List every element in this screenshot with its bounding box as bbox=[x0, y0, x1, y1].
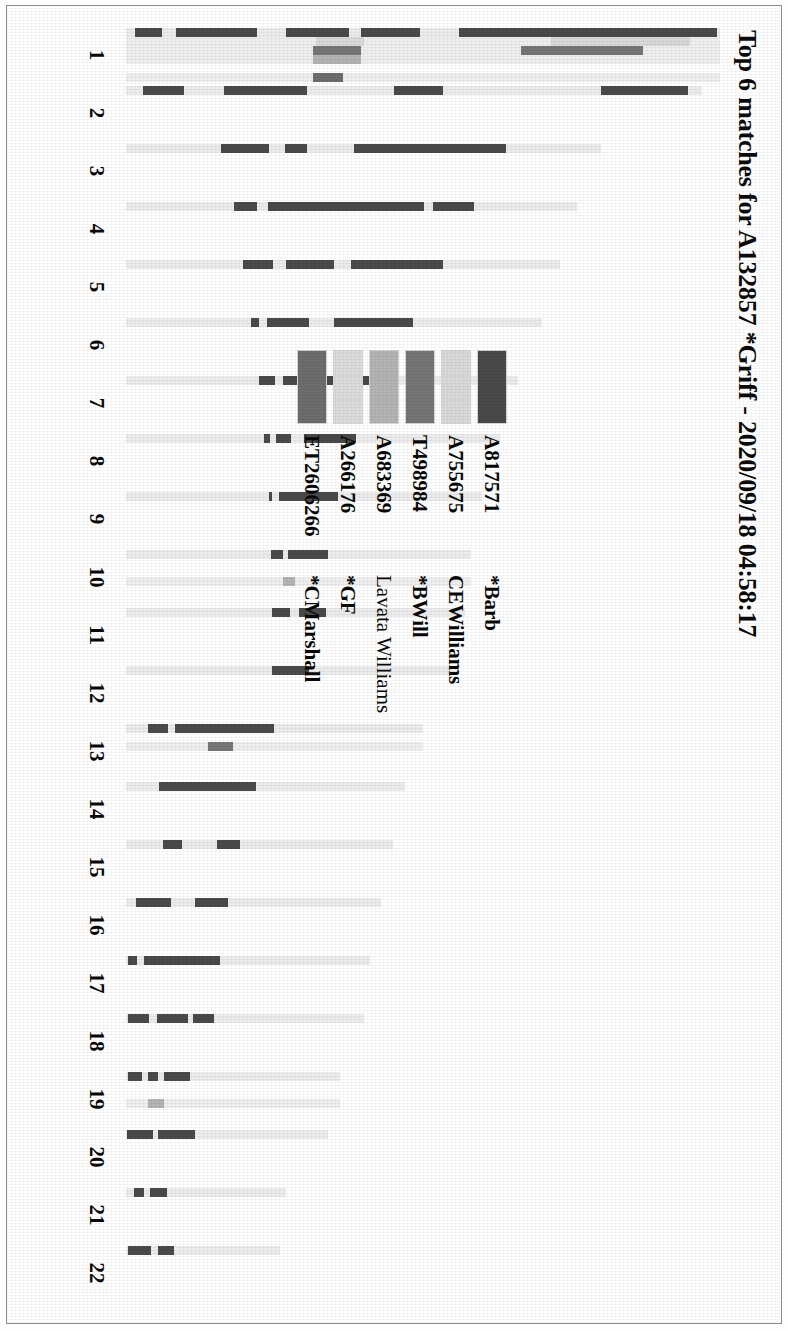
match-segment bbox=[128, 1246, 152, 1255]
chromosome-number-label: 22 bbox=[84, 1246, 109, 1300]
legend-row: A683369Lavata Williams bbox=[366, 350, 402, 713]
chromosome-lane bbox=[126, 180, 601, 189]
chromosome-number-label: 18 bbox=[84, 1014, 109, 1068]
chromosome-lane bbox=[126, 318, 542, 327]
chromosome-lane bbox=[126, 1081, 340, 1090]
legend-match-name: CEWilliams bbox=[444, 575, 469, 684]
chromosome-number-label: 11 bbox=[84, 608, 109, 662]
chromosome-number-label: 17 bbox=[84, 956, 109, 1010]
chromosome-lane bbox=[126, 925, 381, 934]
chromosome-lane bbox=[126, 73, 720, 82]
chromosome-lane bbox=[126, 238, 577, 247]
match-segment bbox=[163, 840, 182, 849]
match-segment bbox=[271, 550, 283, 559]
chromosome-lane bbox=[126, 287, 560, 296]
chromosome-lane bbox=[126, 113, 702, 122]
match-segment bbox=[313, 46, 361, 55]
chromosome-group: 21 bbox=[126, 1188, 286, 1242]
match-segment bbox=[217, 840, 240, 849]
chromosome-lane bbox=[126, 220, 577, 229]
legend: A817571*BarbA755675CEWilliamsT498984*BWi… bbox=[294, 350, 510, 713]
match-segment bbox=[433, 202, 474, 211]
chromosome-group: 19 bbox=[126, 1072, 340, 1126]
chromosome-group: 15 bbox=[126, 840, 393, 894]
chromosome-lane bbox=[126, 809, 405, 818]
match-segment bbox=[286, 260, 334, 269]
match-segment bbox=[128, 956, 137, 965]
legend-row: T498984*BWill bbox=[402, 350, 438, 713]
chromosome-number-label: 16 bbox=[84, 898, 109, 952]
match-segment bbox=[286, 28, 348, 37]
legend-row: ET2606266*CMarshall bbox=[294, 350, 330, 713]
chromosome-number-label: 8 bbox=[84, 434, 109, 488]
chromosome-lane bbox=[126, 28, 720, 37]
match-segment bbox=[334, 318, 413, 327]
chromosome-lane bbox=[126, 1188, 286, 1197]
chromosome-lane bbox=[126, 1282, 280, 1291]
chromosome-lane bbox=[126, 992, 370, 1001]
chromosome-lane bbox=[126, 153, 601, 162]
chromosome-number-label: 20 bbox=[84, 1130, 109, 1184]
legend-match-name: *BWill bbox=[408, 575, 433, 638]
chromosome-lane bbox=[126, 1014, 364, 1023]
chromosome-number-label: 1 bbox=[84, 28, 109, 82]
chromosome-lane bbox=[126, 1108, 340, 1117]
chromosome-lane bbox=[126, 827, 405, 836]
match-segment bbox=[601, 86, 687, 95]
match-segment bbox=[208, 742, 233, 751]
chromosome-lane bbox=[126, 1215, 286, 1224]
chromosome-lane bbox=[126, 1157, 328, 1166]
chromosome-lane bbox=[126, 122, 702, 131]
scanned-page: Top 6 matches for A132857 *Griff - 2020/… bbox=[0, 0, 788, 1331]
match-segment bbox=[267, 318, 309, 327]
legend-row: A266176*GF bbox=[330, 350, 366, 713]
match-segment bbox=[150, 1188, 167, 1197]
match-segment bbox=[394, 86, 443, 95]
chromosome-lane bbox=[126, 1050, 364, 1059]
chromosome-lane bbox=[126, 907, 381, 916]
chromosome-lane bbox=[126, 867, 393, 876]
match-segment bbox=[285, 144, 306, 153]
chromosome-lane bbox=[126, 956, 370, 965]
chromosome-lane bbox=[126, 1273, 280, 1282]
chromosome-lane bbox=[126, 1255, 280, 1264]
chromosome-lane bbox=[126, 1032, 364, 1041]
legend-color-swatch bbox=[441, 350, 471, 424]
match-segment bbox=[128, 1072, 142, 1081]
chromosome-lane bbox=[126, 849, 393, 858]
chromosome-lane bbox=[126, 782, 405, 791]
chromosome-group: 2 bbox=[126, 86, 702, 140]
chromosome-lane bbox=[126, 1197, 286, 1206]
chromosome-lane bbox=[126, 202, 577, 211]
chromosome-lane bbox=[126, 934, 381, 943]
chromosome-lane bbox=[126, 1117, 340, 1126]
chromosome-lane bbox=[126, 229, 577, 238]
chromosome-lane bbox=[126, 260, 560, 269]
chromosome-lane bbox=[126, 818, 405, 827]
chromosome-lane bbox=[126, 1001, 370, 1010]
chromosome-lane bbox=[126, 1130, 328, 1139]
chromosome-lane bbox=[126, 1291, 280, 1300]
match-segment bbox=[158, 1130, 194, 1139]
chromosome-lane bbox=[126, 55, 720, 64]
legend-match-name: Lavata Williams bbox=[372, 575, 397, 713]
match-segment bbox=[313, 55, 361, 64]
chromosome-number-label: 13 bbox=[84, 724, 109, 778]
match-segment bbox=[128, 1014, 148, 1023]
chromosome-lane bbox=[126, 1264, 280, 1273]
chromosome-lane bbox=[126, 305, 560, 314]
match-segment bbox=[157, 1014, 188, 1023]
match-segment bbox=[361, 28, 420, 37]
match-segment bbox=[221, 144, 269, 153]
chromosome-lane bbox=[126, 983, 370, 992]
chromosome-lane bbox=[126, 131, 702, 140]
match-segment bbox=[160, 782, 256, 791]
chromosome-lane bbox=[126, 1099, 340, 1108]
match-segment bbox=[268, 202, 424, 211]
chromosome-lane bbox=[126, 327, 542, 336]
legend-kit-id: A266176 bbox=[336, 435, 361, 563]
chromosome-lane bbox=[126, 800, 405, 809]
legend-match-name: *Barb bbox=[480, 575, 505, 631]
paper-frame: Top 6 matches for A132857 *Griff - 2020/… bbox=[6, 5, 782, 1324]
match-segment bbox=[158, 1246, 174, 1255]
